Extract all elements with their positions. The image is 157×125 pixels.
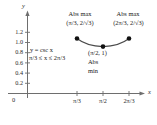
y-tick-label-5: 0.4 bbox=[9, 70, 23, 77]
x-axis-label: x bbox=[148, 89, 151, 96]
figure-container: y x 0 1.2 1.0 0.8 0.6 0.4 0.2 π/3 π/2 2π… bbox=[0, 0, 157, 125]
y-tick-label-2: 1.0 bbox=[9, 39, 23, 46]
y-tick-label-6: 0.2 bbox=[9, 80, 23, 87]
point-abs-max-right bbox=[127, 36, 132, 41]
x-axis-arrowhead bbox=[140, 91, 146, 95]
equation-line-1: y = csc x bbox=[30, 47, 53, 54]
equation-line-2: π/3 ≤ x ≤ 2π/3 bbox=[29, 55, 65, 62]
y-tick-label-1: 1.2 bbox=[9, 29, 23, 36]
abs-min-title-line-2: min bbox=[88, 68, 98, 75]
abs-max-left-title: Abs max bbox=[57, 11, 103, 18]
x-tick-label-3: 2π/3 bbox=[117, 98, 141, 105]
x-tick-label-1: π/3 bbox=[66, 98, 88, 105]
abs-max-left-point: (π/3, 2/√3) bbox=[55, 20, 105, 27]
y-axis-arrowhead bbox=[25, 11, 29, 17]
x-tick-label-2: π/2 bbox=[92, 98, 114, 105]
y-tick-label-3: 0.8 bbox=[9, 49, 23, 56]
abs-max-right-title: Abs max bbox=[103, 11, 153, 18]
abs-min-title-line-1: Abs bbox=[88, 59, 98, 66]
y-axis-label: y bbox=[22, 3, 25, 10]
point-abs-max-left bbox=[75, 36, 80, 41]
y-tick-label-4: 0.6 bbox=[9, 60, 23, 67]
abs-max-right-point: (2π/3, 2/√3) bbox=[101, 20, 156, 27]
abs-min-point: (π/2, 1) bbox=[88, 50, 107, 57]
origin-label: 0 bbox=[12, 97, 15, 104]
